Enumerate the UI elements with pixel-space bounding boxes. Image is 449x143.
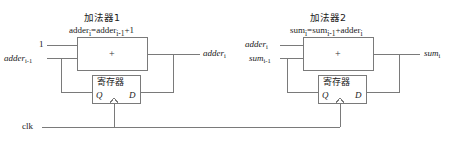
- adder1-input-bottom-text: adder: [4, 53, 25, 63]
- adder2-input-bottom-text: sum: [249, 53, 264, 63]
- adder1-register-q-feedback: [61, 58, 93, 92]
- wire-layer: [0, 0, 449, 143]
- adder2-input-top-sub: i: [266, 43, 268, 50]
- adder2-formula-rhs-sub: i-1: [327, 29, 335, 38]
- adder2-formula-eq: =sum: [307, 25, 327, 35]
- adder1-title: 加法器1: [84, 13, 120, 23]
- adder1-operator: +: [109, 49, 115, 59]
- adder1-formula-eq: =adder: [91, 25, 116, 35]
- adder2-input-bottom-sub: i-1: [264, 57, 271, 64]
- adder2-formula-tail-sub: i: [361, 29, 363, 38]
- adder2-input-top-text: adder: [245, 39, 266, 49]
- adder2-output-label: sumi: [424, 49, 440, 58]
- adder2-register-name: 寄存器: [323, 78, 350, 87]
- adder2-output-to-register-d: [366, 54, 399, 92]
- adder2-register-d-label: D: [355, 91, 362, 100]
- adder1-input-bottom-label: adderi-1: [4, 54, 32, 63]
- adder1-formula-tail: +1: [125, 25, 135, 35]
- adder1-register-q-label: Q: [96, 91, 103, 100]
- adder1-formula: adderi=adderi-1+1: [69, 26, 134, 37]
- adder2-formula-lhs: sum: [290, 25, 305, 35]
- adder1-formula-lhs: adder: [69, 25, 89, 35]
- adder2-formula-tail: +adder: [336, 25, 361, 35]
- adder1-clock-triangle: [110, 98, 119, 104]
- adder1-formula-rhs-sub: i-1: [116, 29, 124, 38]
- clock-label: clk: [22, 122, 33, 131]
- adder1-register-d-label: D: [129, 91, 136, 100]
- adder2-output-sub: i: [439, 52, 441, 59]
- adder1-input-bottom-sub: i-1: [25, 57, 32, 64]
- adder1-input-top-label: 1: [39, 40, 44, 49]
- adder2-input-bottom-label: sumi-1: [249, 54, 271, 63]
- adder2-output-text: sum: [424, 48, 439, 58]
- adder2-formula: sumi=sumi-1+adderi: [290, 26, 363, 37]
- adder2-operator: +: [335, 49, 341, 59]
- adder2-clock-triangle: [336, 98, 345, 104]
- adder2-title: 加法器2: [310, 13, 346, 23]
- adder1-output-to-register-d: [140, 54, 173, 92]
- adder1-register-name: 寄存器: [97, 78, 124, 87]
- adder2-register-q-label: Q: [322, 91, 329, 100]
- adder2-input-top-label: adderi: [245, 40, 268, 49]
- adder1-output-label: adderi: [203, 49, 226, 58]
- adder2-register-q-feedback: [287, 58, 319, 92]
- circuit-diagram: 加法器1 adderi=adderi-1+1 + 1 adderi-1 adde…: [0, 0, 449, 143]
- adder1-output-text: adder: [203, 48, 224, 58]
- adder1-output-sub: i: [224, 52, 226, 59]
